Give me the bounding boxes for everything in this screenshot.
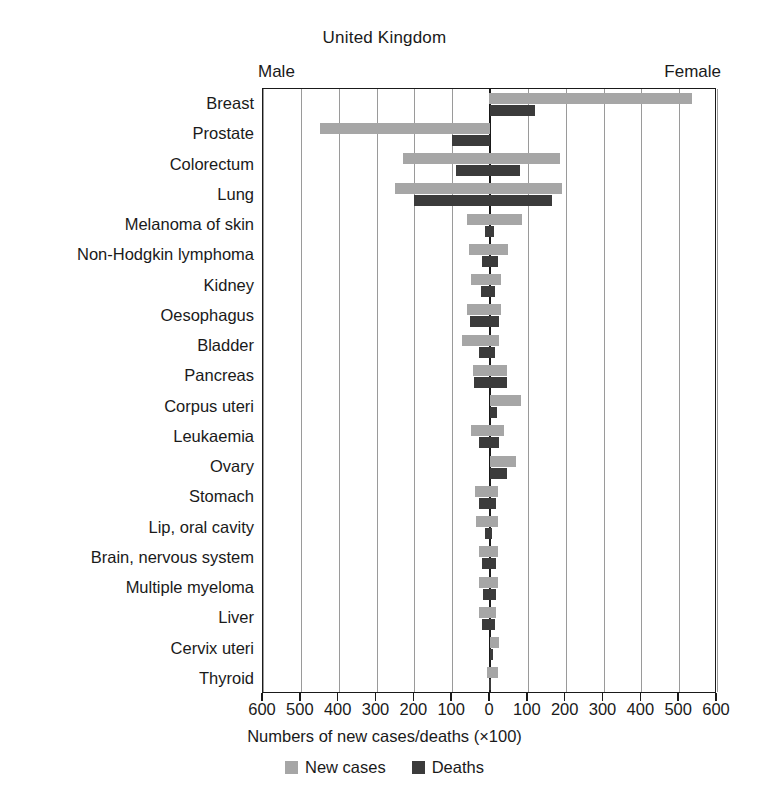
bar-left-deaths [452, 135, 490, 146]
chart-row [263, 331, 715, 361]
bar-right-cases [490, 214, 522, 225]
bar-left-cases [475, 486, 490, 497]
bar-right-cases [490, 304, 501, 315]
bar-right-deaths [490, 649, 493, 660]
bar-left-deaths [482, 558, 490, 569]
bar-left-deaths [470, 316, 490, 327]
bar-right-cases [490, 667, 498, 678]
chart-row [263, 89, 715, 119]
legend-label-deaths: Deaths [432, 758, 484, 777]
bar-left-cases [471, 274, 490, 285]
bar-right-deaths [490, 377, 507, 388]
category-label: Multiple myeloma [18, 579, 254, 596]
category-label: Thyroid [18, 670, 254, 687]
plot-area [262, 88, 716, 693]
chart-row [263, 513, 715, 543]
bar-left-cases [467, 214, 490, 225]
bar-right-deaths [490, 679, 491, 690]
chart-row [263, 210, 715, 240]
legend-item-new-cases: New cases [285, 758, 386, 777]
category-label: Ovary [18, 458, 254, 475]
chart-row [263, 180, 715, 210]
bar-right-deaths [490, 619, 495, 630]
bar-left-deaths [474, 377, 490, 388]
chart-legend: New cases Deaths [0, 758, 769, 777]
bar-right-deaths [490, 316, 499, 327]
chart-row [263, 573, 715, 603]
bar-right-deaths [490, 347, 495, 358]
bar-right-cases [490, 153, 560, 164]
bar-right-cases [490, 456, 516, 467]
bar-right-deaths [490, 558, 496, 569]
bar-right-cases [490, 93, 692, 104]
chart-row [263, 664, 715, 694]
chart-row [263, 301, 715, 331]
bar-right-deaths [490, 528, 492, 539]
bar-right-cases [490, 425, 504, 436]
category-label: Bladder [18, 337, 254, 354]
bar-left-deaths [482, 619, 490, 630]
legend-swatch-new-cases-icon [285, 761, 298, 774]
bar-right-cases [490, 607, 496, 618]
bar-left-deaths [414, 195, 490, 206]
category-label: Breast [18, 95, 254, 112]
category-label: Brain, nervous system [18, 549, 254, 566]
chart-row [263, 452, 715, 482]
bar-left-deaths [479, 498, 490, 509]
bar-right-cases [490, 546, 498, 557]
bar-right-deaths [490, 165, 520, 176]
bar-right-deaths [490, 407, 497, 418]
bar-left-cases [462, 335, 490, 346]
chart-row [263, 150, 715, 180]
bar-left-cases [471, 425, 490, 436]
category-label: Melanoma of skin [18, 216, 254, 233]
x-axis-title: Numbers of new cases/deaths (×100) [0, 727, 769, 746]
legend-item-deaths: Deaths [412, 758, 484, 777]
bar-right-deaths [490, 105, 535, 116]
chart-row [263, 240, 715, 270]
chart-row [263, 392, 715, 422]
bar-right-deaths [490, 195, 552, 206]
bar-left-cases [395, 183, 490, 194]
bar-left-deaths [479, 347, 490, 358]
chart-row [263, 543, 715, 573]
bar-left-deaths [482, 256, 490, 267]
female-side-label: Female [664, 62, 721, 82]
category-label: Kidney [18, 277, 254, 294]
chart-row [263, 271, 715, 301]
bar-right-deaths [490, 437, 499, 448]
chart-row [263, 603, 715, 633]
bar-left-cases [320, 123, 490, 134]
bar-right-deaths [490, 256, 498, 267]
bar-right-cases [490, 486, 498, 497]
bar-left-cases [479, 577, 490, 588]
chart-row [263, 482, 715, 512]
male-side-label: Male [258, 62, 295, 82]
category-label: Leukaemia [18, 428, 254, 445]
bar-right-cases [490, 274, 501, 285]
category-label: Pancreas [18, 367, 254, 384]
gridline [717, 89, 718, 692]
chart-row [263, 422, 715, 452]
bar-left-cases [479, 607, 490, 618]
bar-left-deaths [479, 437, 490, 448]
bar-right-cases [490, 183, 562, 194]
chart-row [263, 634, 715, 664]
bar-left-deaths [456, 165, 490, 176]
chart-row [263, 361, 715, 391]
category-label: Lip, oral cavity [18, 519, 254, 536]
bar-left-cases [403, 153, 490, 164]
bar-right-deaths [490, 468, 507, 479]
legend-swatch-deaths-icon [412, 761, 425, 774]
bar-left-cases [473, 365, 490, 376]
bar-right-cases [490, 577, 498, 588]
bar-right-cases [490, 516, 498, 527]
bar-left-deaths [483, 589, 490, 600]
category-label: Liver [18, 609, 254, 626]
bar-right-deaths [490, 589, 496, 600]
bar-right-cases [490, 244, 508, 255]
category-label: Stomach [18, 488, 254, 505]
chart-container: United Kingdom Male Female BreastProstat… [0, 0, 769, 812]
chart-title: United Kingdom [0, 28, 769, 48]
bar-right-cases [490, 395, 521, 406]
